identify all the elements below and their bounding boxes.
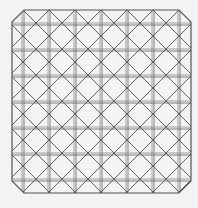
lattice-diagram [0,0,198,208]
lattice-svg [0,0,198,208]
